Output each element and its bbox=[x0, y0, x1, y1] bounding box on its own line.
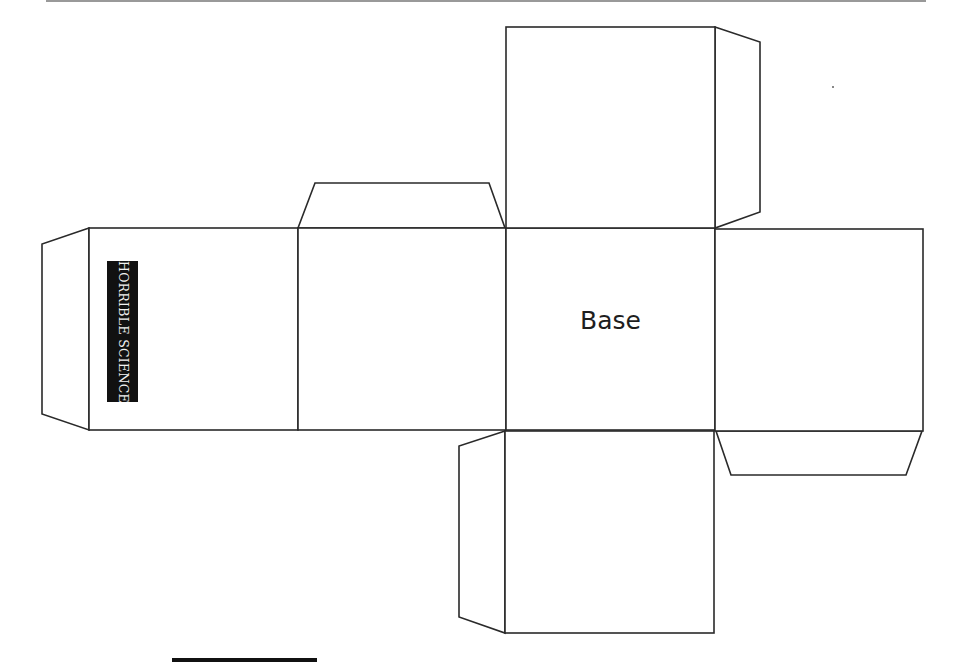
top-tab bbox=[298, 183, 505, 228]
right-face bbox=[715, 229, 923, 431]
bottom-face bbox=[505, 431, 714, 633]
logo-text: HORRIBLE SCIENCE bbox=[115, 260, 130, 402]
cube-net-diagram bbox=[0, 0, 954, 662]
top-face-right-tab bbox=[715, 27, 760, 228]
bottom-face-left-tab bbox=[459, 431, 505, 633]
cropped-bottom-mark bbox=[172, 658, 317, 662]
horrible-science-logo: HORRIBLE SCIENCE bbox=[107, 261, 138, 402]
left-tab bbox=[42, 228, 89, 430]
print-speck bbox=[832, 86, 834, 88]
middle-left-face bbox=[298, 228, 506, 430]
top-face bbox=[506, 27, 715, 228]
base-label: Base bbox=[506, 306, 715, 335]
right-face-bottom-tab bbox=[716, 431, 922, 475]
